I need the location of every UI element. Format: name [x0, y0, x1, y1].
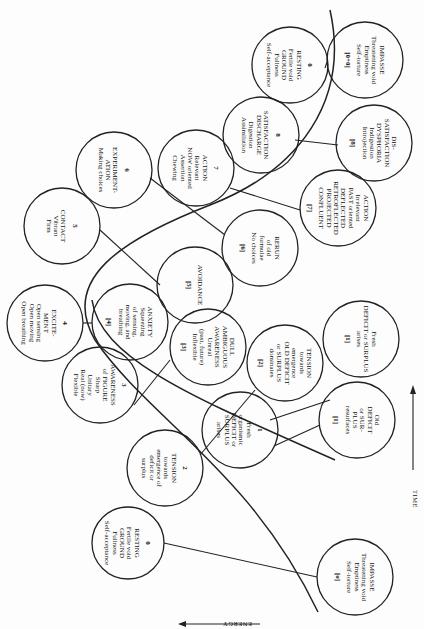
blocked-circle-b7: ACTIONIrrelevantPAST orientedDEFLECTEDRE… [300, 170, 376, 246]
stage-label-line: Making choices [97, 148, 105, 193]
stage-circle-h7: 7ACTIONRelevantNOW orientedAssertionChew… [158, 130, 234, 206]
stage-circle-h0b: 0RESTINGFertile voidGROUNDFullnessSelf-a… [252, 27, 328, 103]
blocked-circle-b1a: FreshDEFICIT or SURPLUSarises[1] [323, 301, 399, 377]
stage-label-line: Assimilation [240, 117, 248, 153]
stage-label-line: resurfaces [344, 406, 352, 435]
blocked-circle-b6: RERUNof oldformulaeNo choices[6] [222, 210, 298, 286]
stage-label-line: dominates [268, 349, 276, 378]
blocked-circle-b2: TENSIONtowardsemergenceOLD DEFICITor SUR… [247, 325, 323, 401]
energy-axis: ENERGY [178, 621, 260, 628]
stage-label-line: surplus [140, 458, 148, 479]
stage-circle-h2: 2TENSIONtowardsemergence ofdeficit orsur… [127, 430, 203, 506]
stage-label-line: Self-torture [345, 561, 353, 593]
stage-number: [4] [105, 318, 113, 326]
stage-number: [1] [332, 416, 340, 424]
stage-circle-h0a: 0RESTINGFertile voidGROUNDFullnessSelf-a… [92, 507, 164, 579]
energy-axis-label: ENERGY [223, 621, 252, 628]
stage-circle-h8: 8SATISFACTIONDISCHARGEDigestionAssimilat… [223, 97, 299, 173]
stage-number: [8] [349, 139, 357, 147]
blocked-circle-b4: ANXIETYSqueezingof sensing,moving, andbr… [92, 284, 168, 360]
blocked-circle-b0a: IMPASSEThreatening voidEmptinessSelf-tor… [317, 539, 393, 615]
stage-label-line: AVOIDANCE [196, 265, 204, 306]
stage-label-line: Chewing [171, 155, 179, 181]
stage-number: 3 [120, 383, 128, 387]
blocked-circle-b0b: IMPASSEThreatening voidEmptinessSelf-tor… [327, 22, 403, 98]
stage-number: 0 [306, 63, 314, 67]
stage-number: [3] [180, 343, 188, 351]
time-axis-label: TIME [412, 490, 419, 508]
stage-circle-h6: 6EXPERIMENT-ATIONMaking choices [76, 132, 152, 208]
stage-label-line: CONFLUENT [317, 187, 325, 229]
stage-label-line: Self-acceptance [103, 521, 111, 565]
stage-number: 5 [71, 224, 79, 228]
stage-label-line: Flexible [72, 374, 80, 397]
stage-number: 6 [123, 168, 131, 172]
cycle-of-experience-diagram: 0RESTINGFertile voidGROUNDFullnessSelf-a… [0, 0, 424, 629]
stage-number: [5] [185, 281, 193, 289]
stage-label-line: Firm [45, 219, 53, 233]
stage-number: 1 [256, 428, 264, 432]
stage-number: [o] [334, 573, 342, 581]
stage-label-line: breathing [117, 309, 125, 336]
stage-circle-h3: 3AWARENESSof FIGURESharpUnitaryReal (now… [62, 347, 138, 423]
time-axis: TIME [410, 385, 419, 508]
stage-number: 2 [181, 466, 189, 470]
stage-label-line: Inflexible [191, 333, 199, 360]
stage-number: 4 [61, 321, 69, 325]
stage-number: [1] [344, 335, 352, 343]
stage-label-line: Self-acceptance [265, 43, 273, 87]
stage-label-line: arises [355, 331, 363, 347]
stage-label-line: Open breathing [20, 301, 28, 345]
stage-number: [6] [239, 244, 247, 252]
stage-number: [2] [257, 359, 265, 367]
stage-label-line: arises [215, 422, 223, 438]
stage-number: 8 [274, 133, 282, 137]
blocked-circle-b1b: OldDEFICITor SUR-PLUSresurfaces[1] [319, 382, 395, 458]
stage-number: [7] [306, 204, 314, 212]
stage-number: [0+0] [344, 52, 352, 68]
stage-circle-h4: 4EXCITE-MENTOpen sensingOpen movingOpen … [7, 285, 83, 361]
blocked-circle-b8: DIS-SATISFACTIONDYSPHORIAIndigestionIntr… [336, 105, 412, 181]
stage-number: 7 [212, 166, 220, 170]
stage-label-line: Introjection [361, 127, 369, 160]
stage-label-line: No choices [250, 232, 258, 264]
stage-label-line: Self-torture [355, 44, 363, 76]
stage-number: 0 [144, 541, 152, 545]
stage-circle-h5: 5CONTACTVibrantFirm [24, 188, 100, 264]
